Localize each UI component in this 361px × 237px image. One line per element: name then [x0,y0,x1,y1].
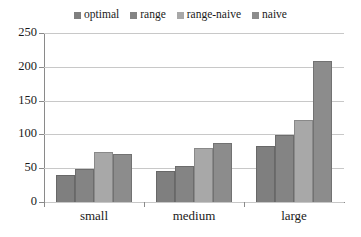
bar-naive-large [313,61,332,202]
legend-item-range-naive: range-naive [177,9,241,21]
bar-range-small [75,169,94,202]
y-axis-labels: 050100150200250 [0,0,37,237]
legend-swatch-range [130,12,137,19]
legend-item-range: range [130,9,166,21]
y-axis-tick-label: 50 [3,161,37,174]
legend-label-optimal: optimal [84,9,119,21]
bar-optimal-large [256,146,275,202]
bar-group-large [256,33,332,202]
y-axis-tick-label: 250 [3,26,37,39]
bar-range-naive-medium [194,148,213,202]
bar-naive-small [113,154,132,202]
x-axis-label-medium: medium [144,209,244,222]
bar-range-large [275,135,294,202]
chart-legend: optimal range range-naive naive [0,6,361,24]
plot-area [44,33,344,202]
bar-optimal-small [56,175,75,202]
bar-optimal-medium [156,171,175,202]
x-axis-separator [244,202,245,207]
legend-swatch-naive [252,12,259,19]
bar-naive-medium [213,143,232,202]
bar-group-medium [156,33,232,202]
bar-range-naive-small [94,152,113,202]
gridline [44,202,344,203]
legend-item-optimal: optimal [74,9,119,21]
x-axis-separator [44,202,45,207]
bar-group-small [56,33,132,202]
y-axis-tick-label: 100 [3,127,37,140]
legend-label-naive: naive [262,9,287,21]
bar-chart: optimal range range-naive naive 05010015… [0,0,361,237]
y-axis-tick-label: 0 [3,195,37,208]
x-axis-label-large: large [244,209,344,222]
legend-swatch-range-naive [177,12,184,19]
legend-swatch-optimal [74,12,81,19]
x-axis-separator [144,202,145,207]
bar-range-naive-large [294,120,313,202]
legend-item-naive: naive [252,9,287,21]
y-axis-tick-label: 200 [3,60,37,73]
bar-range-medium [175,166,194,203]
legend-label-range-naive: range-naive [187,9,241,21]
legend-label-range: range [140,9,166,21]
x-axis-label-small: small [44,209,144,222]
y-axis-tick-label: 150 [3,94,37,107]
